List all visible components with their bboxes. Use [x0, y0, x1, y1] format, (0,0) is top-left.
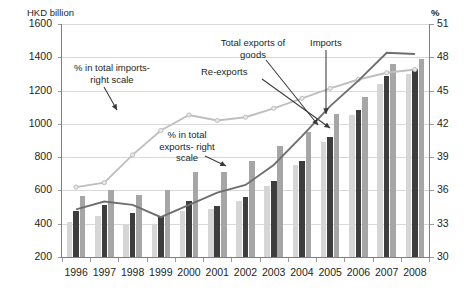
arrow-re-exports	[262, 79, 330, 128]
arrow-total-exports-of-goods	[266, 60, 318, 125]
arrow-pct-in-total-exports	[205, 156, 226, 166]
annotation-arrows	[0, 0, 467, 294]
chart-container: HKD billion % 20040060080010001200140016…	[0, 0, 467, 294]
arrow-pct-in-total-imports	[104, 87, 117, 110]
